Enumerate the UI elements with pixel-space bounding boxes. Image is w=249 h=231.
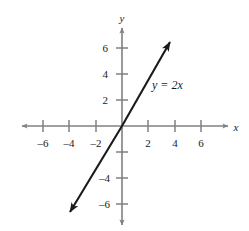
x-tick-label--6: –6 [37, 137, 50, 149]
x-tick-label-4: 4 [172, 137, 178, 149]
x-axis-label: x [233, 121, 239, 133]
y-tick-label-2: 2 [103, 94, 109, 106]
x-tick-labels: –6 –4 –2 2 4 6 [37, 137, 205, 149]
y-tick-label--6: –6 [98, 198, 111, 210]
x-tick-label-2: 2 [145, 137, 151, 149]
plotted-line-y-equals-2x [70, 42, 170, 212]
equation-label: y = 2x [151, 78, 183, 92]
y-tick-label-6: 6 [103, 42, 109, 54]
x-tick-label--2: –2 [90, 137, 102, 149]
x-tick-label--4: –4 [63, 137, 76, 149]
y-tick-label-4: 4 [103, 68, 109, 80]
graph-figure: –6 –4 –2 2 4 6 6 4 2 –4 –6 y x y = 2x [0, 0, 249, 231]
coordinate-plane-svg: –6 –4 –2 2 4 6 6 4 2 –4 –6 y x y = 2x [0, 0, 249, 231]
y-axis-label: y [119, 12, 125, 24]
y-tick-label--4: –4 [98, 172, 111, 184]
x-tick-label-6: 6 [198, 137, 204, 149]
